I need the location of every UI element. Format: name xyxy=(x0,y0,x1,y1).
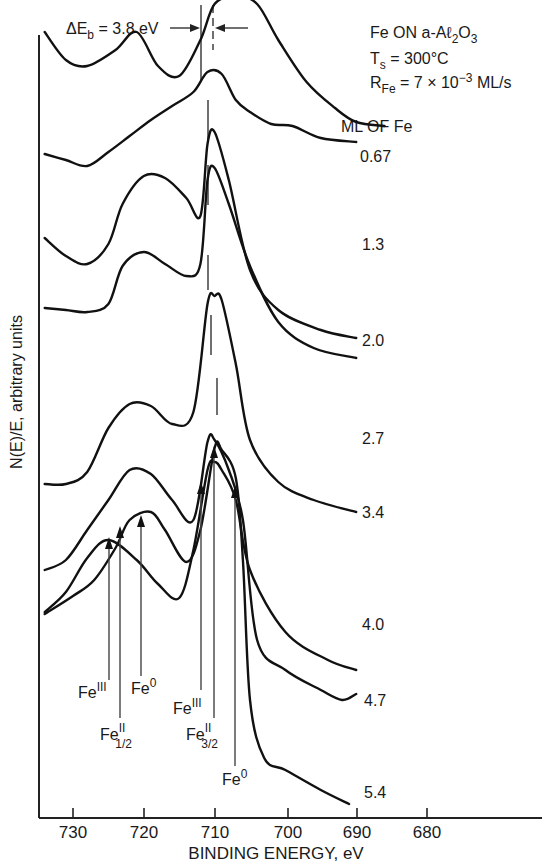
label-fe2-1-2: FeII1/2 xyxy=(100,721,132,751)
xtick-690: 690 xyxy=(343,823,371,842)
curve-label-0.67: 0.67 xyxy=(360,148,391,165)
label-fe3-left: FeIII xyxy=(78,680,107,701)
spectrum-curve-0.67 xyxy=(45,0,385,126)
arrow-left-icon xyxy=(215,24,225,32)
curve-label-2.0: 2.0 xyxy=(362,332,384,349)
xtick-700: 700 xyxy=(274,823,302,842)
curve-label-4.0: 4.0 xyxy=(362,616,384,633)
curve-label-4.7: 4.7 xyxy=(364,692,386,709)
curve-label-1.3: 1.3 xyxy=(362,236,384,253)
condition-substrate: Fe ON a-Aℓ2O3 xyxy=(370,24,478,46)
peak-annotation-labels: FeIII FeII1/2 Fe0 FeIII FeII3/2 Fe0 xyxy=(78,676,248,788)
condition-temperature: Ts = 300°C xyxy=(370,50,449,72)
curve-label-5.4: 5.4 xyxy=(364,784,386,801)
curve-labels: 0.67 1.3 2.0 2.7 3.4 4.0 4.7 5.4 xyxy=(360,148,391,801)
label-fe2-3-2: FeII3/2 xyxy=(186,721,218,751)
condition-rate: RFe = 7 × 10−3 ML/s xyxy=(370,71,512,96)
curve-label-3.4: 3.4 xyxy=(362,504,384,521)
delta-eb-annotation: ΔEb = 3.8 eV xyxy=(66,20,248,42)
xtick-730: 730 xyxy=(59,823,87,842)
peak-marker-lines xyxy=(208,100,217,415)
svg-text:ΔEb = 3.8 eV: ΔEb = 3.8 eV xyxy=(66,20,159,42)
xtick-710: 710 xyxy=(201,823,229,842)
spectrum-curve-2.0 xyxy=(45,129,357,338)
x-ticks xyxy=(73,808,427,818)
xtick-680: 680 xyxy=(413,823,441,842)
peak-annotation-arrows xyxy=(105,446,239,766)
x-tick-labels: 730 720 710 700 690 680 xyxy=(59,823,441,842)
curve-label-2.7: 2.7 xyxy=(362,430,384,447)
arrow-right-icon xyxy=(190,24,200,32)
label-fe0-right: Fe0 xyxy=(222,767,248,788)
y-axis-label: N(E)/E, arbitrary units xyxy=(8,315,25,469)
xps-spectra-chart: 730 720 710 700 690 680 BINDING ENERGY, … xyxy=(0,0,542,863)
label-fe0-left: Fe0 xyxy=(131,676,157,697)
label-fe3-right: FeIII xyxy=(173,696,202,717)
x-axis-label: BINDING ENERGY, eV xyxy=(188,844,364,863)
xtick-720: 720 xyxy=(130,823,158,842)
experimental-conditions: Fe ON a-Aℓ2O3 Ts = 300°C RFe = 7 × 10−3 … xyxy=(370,24,512,96)
